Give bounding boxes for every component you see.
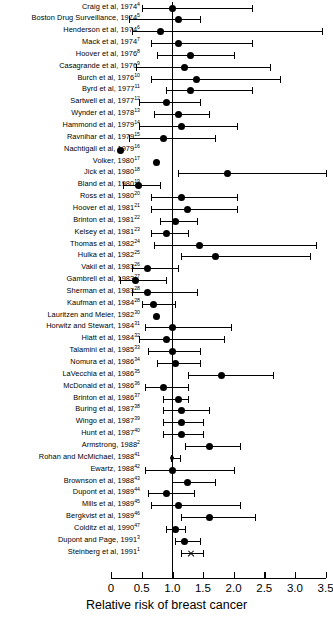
axis-tick: [264, 572, 265, 578]
axis-tick-label: 2.0: [226, 582, 242, 595]
axis-tick-label: 1.0: [164, 582, 180, 595]
axis-tick-label: 3.0: [287, 582, 303, 595]
axis-tick-label: 2.5: [256, 582, 272, 595]
axis-baseline: [111, 578, 326, 579]
axis-tick: [142, 572, 143, 578]
axis-tick-label: 3.5: [318, 582, 333, 595]
axis-tick: [234, 572, 235, 578]
axis-tick: [172, 572, 173, 578]
forest-plot-figure: Craig et al, 19744Boston Drug Surveillan…: [0, 0, 333, 626]
axis-tick: [326, 572, 327, 578]
axis-tick-label: 1.5: [195, 582, 211, 595]
axis-tick-label: 0: [108, 582, 114, 595]
axis-tick: [203, 572, 204, 578]
axis-tick: [295, 572, 296, 578]
x-axis: 00.51.01.52.02.53.03.5 Relative risk of …: [0, 0, 333, 626]
axis-tick-label: 0.5: [134, 582, 150, 595]
axis-tick: [111, 572, 112, 578]
x-axis-title: Relative risk of breast cancer: [0, 598, 333, 612]
